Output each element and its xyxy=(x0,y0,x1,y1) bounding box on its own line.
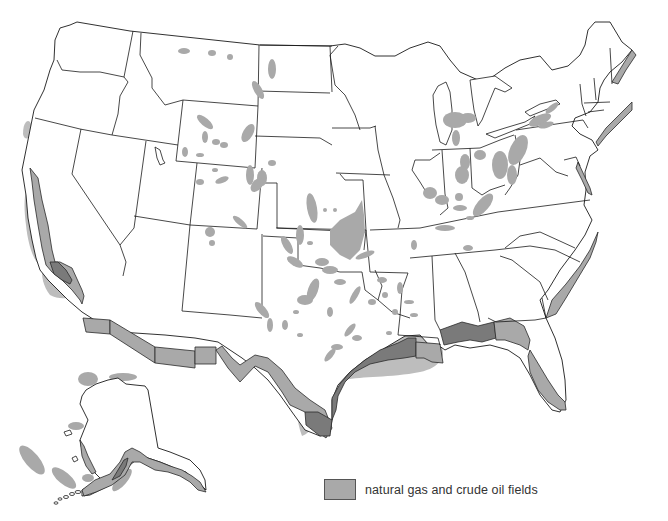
mexico-border-band-1 xyxy=(83,318,110,334)
mexico-border-band-4 xyxy=(195,347,216,364)
atlantic-shelf-northeast xyxy=(596,102,632,146)
aleutian-islands xyxy=(54,491,81,505)
legend-swatch-oil-gas-fields xyxy=(324,479,356,500)
us-oil-gas-map xyxy=(0,0,668,521)
alaska-north-slope-field-1 xyxy=(78,372,98,386)
legend: natural gas and crude oil fields xyxy=(324,479,538,500)
mexico-border-band-3 xyxy=(155,347,195,368)
alaska xyxy=(15,372,206,504)
legend-label: natural gas and crude oil fields xyxy=(365,483,538,497)
